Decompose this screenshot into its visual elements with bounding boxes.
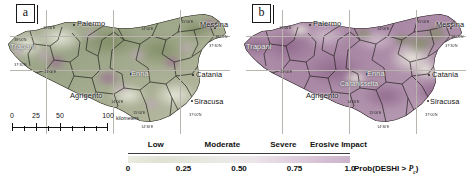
coord-label: 13°00'E bbox=[44, 70, 56, 74]
panel-label-a: a bbox=[16, 4, 35, 23]
graticule-lon-14-00-b bbox=[349, 10, 350, 134]
colorbar-gradient bbox=[128, 156, 350, 163]
city-label-trapani: Trapani bbox=[10, 42, 35, 51]
coord-label: 37°00'N bbox=[189, 113, 201, 117]
city-label-palermo: Palermo bbox=[77, 19, 105, 28]
city-label-siracusa: Siracusa bbox=[194, 97, 224, 106]
scale-tick-label: 100 bbox=[102, 112, 114, 119]
coord-label: 15°00'E bbox=[369, 111, 381, 115]
scale-tick-label: 50 bbox=[56, 112, 64, 119]
colorbar-axis-label: Prob(DESHI > Pc) bbox=[354, 164, 418, 175]
colorbar-legend: Low Moderate Severe Erosive Impact 0 0.2… bbox=[0, 140, 472, 186]
coord-label: 14°30'E bbox=[141, 125, 153, 129]
city-label-agrigento: Agrigento bbox=[70, 91, 103, 100]
city-label-enna: Enna bbox=[367, 69, 385, 78]
city-label-palermo: Palermo bbox=[313, 19, 341, 28]
colorbar-tick-labels: 0 0.25 0.50 0.75 1.0 bbox=[128, 164, 350, 178]
graticule-lat-38-00-b bbox=[246, 36, 466, 37]
colorbar-tick-050: 0.50 bbox=[231, 164, 247, 173]
figure-root: a bbox=[0, 0, 472, 186]
colorbar-axis-suffix: ) bbox=[416, 164, 419, 173]
coord-label: 13°00'E bbox=[280, 70, 292, 74]
city-label-catania: Catania bbox=[432, 70, 458, 79]
colorbar-tick-0: 0 bbox=[126, 164, 130, 173]
city-label-caltanissetta: Caltanissetta bbox=[340, 80, 378, 87]
city-label-agrigento: Agrigento bbox=[306, 91, 339, 100]
city-label-catania: Catania bbox=[196, 70, 222, 79]
scale-tick-label: 25 bbox=[32, 112, 40, 119]
colorbar-class-severe: Severe bbox=[270, 140, 296, 149]
coord-label: 14°00'E bbox=[111, 100, 123, 104]
coord-label: 15°00'E bbox=[181, 20, 193, 24]
city-label-enna: Enna bbox=[131, 69, 149, 78]
map-panels: a bbox=[0, 0, 472, 140]
scale-tick-label: 0 bbox=[10, 112, 14, 119]
coord-label: 38°00'N bbox=[451, 35, 463, 39]
coord-label: 14°00'E bbox=[347, 100, 359, 104]
graticule-lon-15-00-b bbox=[416, 10, 417, 134]
colorbar-class-labels: Low Moderate Severe Erosive Impact bbox=[128, 140, 350, 153]
city-label-messina: Messina bbox=[200, 20, 228, 29]
city-label-messina: Messina bbox=[436, 20, 464, 29]
graticule-lon-15-00-a bbox=[180, 10, 181, 134]
colorbar-tick-025: 0.25 bbox=[176, 164, 192, 173]
panel-label-b: b bbox=[252, 4, 271, 23]
city-label-trapani: Trapani bbox=[246, 42, 271, 51]
scale-bar: 0 25 50 100 kilometers bbox=[12, 112, 128, 131]
map-panel-b[interactable]: b bbox=[236, 0, 472, 140]
coord-label: 37°00'N bbox=[425, 113, 437, 117]
coord-label: 14°00'E bbox=[377, 27, 389, 31]
coord-label: 13°00'E bbox=[279, 26, 291, 30]
coord-label: 13°00'E bbox=[43, 26, 55, 30]
colorbar-class-erosive-impact: Erosive Impact bbox=[310, 140, 367, 149]
colorbar-rule bbox=[128, 153, 350, 154]
coord-label: 14°00'E bbox=[141, 27, 153, 31]
colorbar-class-low: Low bbox=[148, 140, 164, 149]
coord-label: 15°00'E bbox=[417, 20, 429, 24]
colorbar-class-moderate: Moderate bbox=[205, 140, 241, 149]
colorbar-axis-prefix: Prob(DESHI > bbox=[354, 164, 408, 173]
coord-label: 14°30'E bbox=[377, 125, 389, 129]
coord-label: 38°00'N bbox=[215, 35, 227, 39]
coord-label: 37°30'N bbox=[209, 44, 221, 48]
graticule-lat-38-00-a bbox=[10, 36, 230, 37]
scale-unit-label: kilometers bbox=[116, 115, 139, 121]
map-panel-a[interactable]: a bbox=[0, 0, 236, 140]
colorbar-tick-075: 0.75 bbox=[287, 164, 303, 173]
coord-label: 37°30'N bbox=[14, 63, 26, 67]
city-label-siracusa: Siracusa bbox=[430, 97, 460, 106]
coord-label: 37°30'N bbox=[445, 44, 457, 48]
